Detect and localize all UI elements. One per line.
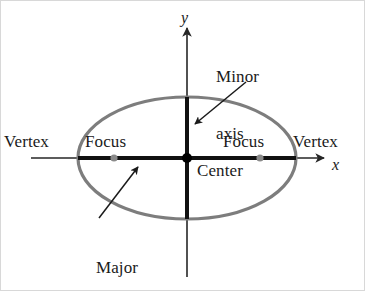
- label-major-axis-line1: Major: [71, 258, 163, 277]
- diagram-canvas: Vertex Focus Focus Vertex Center Minor a…: [0, 0, 365, 291]
- label-focus-left: Focus: [85, 132, 126, 151]
- label-vertex-right: Vertex: [293, 132, 338, 151]
- focus-left-point: [110, 154, 117, 161]
- center-point: [182, 153, 192, 163]
- label-minor-axis: Minor axis: [216, 29, 259, 181]
- label-major-axis: Major axis: [71, 220, 163, 291]
- label-minor-axis-line2: axis: [216, 124, 259, 143]
- label-y-axis: y: [181, 9, 188, 27]
- label-x-axis: x: [332, 156, 339, 174]
- label-vertex-left: Vertex: [4, 132, 49, 151]
- label-minor-axis-line1: Minor: [216, 67, 259, 86]
